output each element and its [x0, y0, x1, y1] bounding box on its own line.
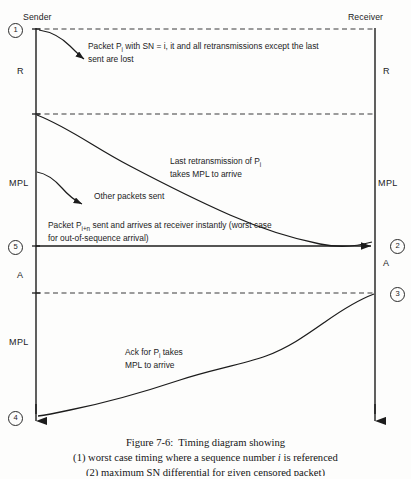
figure-page: Sender Receiver R MPL A MPL R MPL A 1 5 …	[0, 0, 411, 479]
interval-label-right-mpl-upper: MPL	[378, 177, 398, 189]
annotation-out-of-sequence: Packet Pi+n sent and arrives at receiver…	[48, 219, 378, 244]
figure-caption: Figure 7-6: Timing diagram showing (1) w…	[0, 435, 411, 476]
annotation-last-retransmission-line1-pre: Last retransmission of P	[170, 156, 260, 166]
interval-label-right-a: A	[383, 257, 389, 269]
interval-label-left-mpl-upper: MPL	[9, 177, 29, 189]
annotation-out-of-sequence-line2: for out-of-sequence arrival)	[48, 232, 378, 245]
interval-label-left-mpl-lower: MPL	[9, 336, 29, 348]
figure-caption-line1: Figure 7-6: Timing diagram showing	[0, 435, 411, 450]
annotation-last-retransmission-line2: takes MPL to arrive	[170, 168, 350, 181]
figure-caption-line2-pre: (1) worst case timing where a sequence n…	[73, 452, 278, 463]
interval-label-left-r: R	[17, 65, 24, 77]
annotation-last-retransmission: Last retransmission of Pi takes MPL to a…	[170, 155, 350, 180]
event-marker-3: 3	[390, 287, 405, 302]
annotation-last-retransmission-subscript: i	[260, 161, 261, 168]
event-marker-4: 4	[8, 411, 23, 426]
annotation-ack: Ack for Pi takes MPL to arrive	[125, 346, 285, 371]
curve-other-packets	[37, 172, 82, 204]
figure-caption-line2-post: is referenced	[281, 452, 338, 463]
sender-label: Sender	[23, 12, 52, 24]
event-marker-1: 1	[8, 23, 23, 38]
event-marker-5: 5	[8, 240, 23, 255]
annotation-ack-line1-pre: Ack for P	[125, 347, 159, 357]
annotation-other-packets: Other packets sent	[94, 190, 244, 203]
receiver-label: Receiver	[348, 12, 383, 24]
annotation-out-of-sequence-subscript: i+n	[82, 225, 91, 232]
annotation-out-of-sequence-line1-pre: Packet P	[48, 220, 82, 230]
annotation-packet-loss-line1-post: with SN = i, it and all retransmissions …	[123, 41, 319, 51]
annotation-packet-loss-line2: sent are lost	[88, 53, 388, 66]
figure-caption-line2: (1) worst case timing where a sequence n…	[0, 450, 411, 465]
annotation-ack-line1-post: takes	[160, 347, 182, 357]
figure-caption-line3: (2) maximum SN differential for given ce…	[0, 465, 411, 476]
interval-label-right-r: R	[383, 65, 390, 77]
annotation-packet-loss: Packet Pi with SN = i, it and all retran…	[88, 40, 388, 65]
annotation-packet-loss-line1-pre: Packet P	[88, 41, 122, 51]
annotation-out-of-sequence-line1-post: sent and arrives at receiver instantly (…	[90, 220, 272, 230]
interval-label-left-a: A	[17, 269, 23, 281]
event-marker-2: 2	[390, 239, 405, 254]
annotation-ack-line2: MPL to arrive	[125, 359, 285, 372]
pointer-packet-loss	[39, 30, 84, 59]
